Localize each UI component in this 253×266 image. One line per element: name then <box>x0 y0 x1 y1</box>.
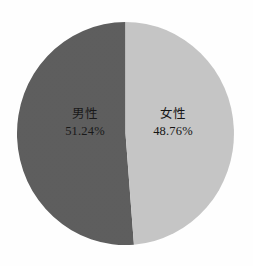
pie-slice-label-male-value: 51.24% <box>45 123 125 140</box>
pie-slice-label-female-name: 女性 <box>133 106 213 123</box>
pie-slice-label-female: 女性 48.76% <box>133 106 213 139</box>
pie-slice-label-female-value: 48.76% <box>133 123 213 140</box>
pie-chart-figure: 男性 51.24% 女性 48.76% <box>0 0 253 266</box>
pie-slice-label-male: 男性 51.24% <box>45 106 125 139</box>
pie-slice-label-male-name: 男性 <box>45 106 125 123</box>
